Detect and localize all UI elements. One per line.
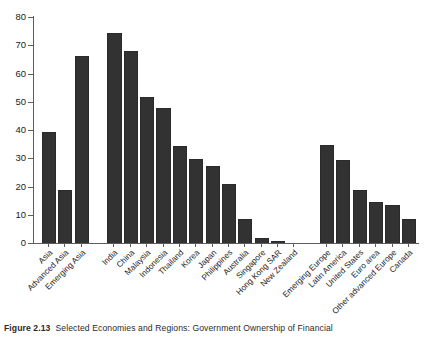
y-axis-label-30: 30 — [4, 153, 26, 162]
bar — [238, 219, 252, 243]
y-axis-label-20: 20 — [4, 182, 26, 191]
bar — [271, 241, 285, 243]
bar — [369, 202, 383, 243]
bar — [140, 97, 154, 243]
y-axis-label-70: 70 — [4, 40, 26, 49]
bar — [189, 159, 203, 243]
bar — [173, 146, 187, 243]
figure-number: Figure 2.13 — [4, 323, 50, 333]
bar — [58, 190, 72, 243]
bar — [222, 184, 236, 243]
bar — [75, 56, 89, 243]
y-axis-label-40: 40 — [4, 125, 26, 134]
bar — [336, 160, 350, 243]
y-axis-label-80: 80 — [4, 12, 26, 21]
bar — [42, 132, 56, 243]
bar — [107, 33, 121, 243]
bar-series — [33, 17, 419, 243]
bar — [255, 238, 269, 243]
y-axis-label-10: 10 — [4, 210, 26, 219]
bar — [124, 51, 138, 243]
bar — [156, 108, 170, 243]
figure-caption: Figure 2.13 Selected Economies and Regio… — [4, 323, 420, 334]
y-axis-tick-labels: 01020304050607080 — [0, 0, 26, 260]
figure-container: 01020304050607080 AsiaAdvanced AsiaEmerg… — [0, 0, 424, 337]
y-axis-label-50: 50 — [4, 97, 26, 106]
y-axis-label-60: 60 — [4, 69, 26, 78]
bar — [385, 205, 399, 243]
bar — [402, 219, 416, 243]
bar — [320, 145, 334, 243]
bar — [353, 190, 367, 243]
bar — [206, 166, 220, 243]
x-axis-tick-labels: AsiaAdvanced AsiaEmerging AsiaIndiaChina… — [0, 246, 424, 316]
figure-caption-text: Selected Economies and Regions: Governme… — [55, 323, 332, 333]
